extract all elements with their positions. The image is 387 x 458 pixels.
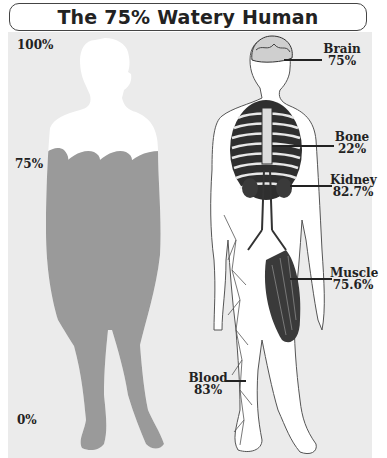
- organ-value: 22%: [334, 143, 370, 155]
- organ-label-blood: Blood 83%: [188, 372, 228, 396]
- bone-leader-line: [272, 145, 334, 147]
- kidney-leader-line: [290, 185, 332, 187]
- organ-label-kidney: Kidney 82.7%: [330, 174, 376, 198]
- muscle-leader-line: [290, 278, 332, 280]
- organ-label-muscle: Muscle 75.6%: [330, 267, 376, 291]
- organ-label-bone: Bone 22%: [334, 131, 370, 155]
- blood-leader-line: [226, 380, 246, 382]
- brain-leader-line: [284, 59, 322, 61]
- organ-value: 83%: [188, 384, 228, 396]
- organ-value: 75%: [322, 55, 362, 67]
- organ-value: 75.6%: [330, 279, 376, 291]
- organ-value: 82.7%: [330, 186, 376, 198]
- organ-label-brain: Brain 75%: [322, 43, 362, 67]
